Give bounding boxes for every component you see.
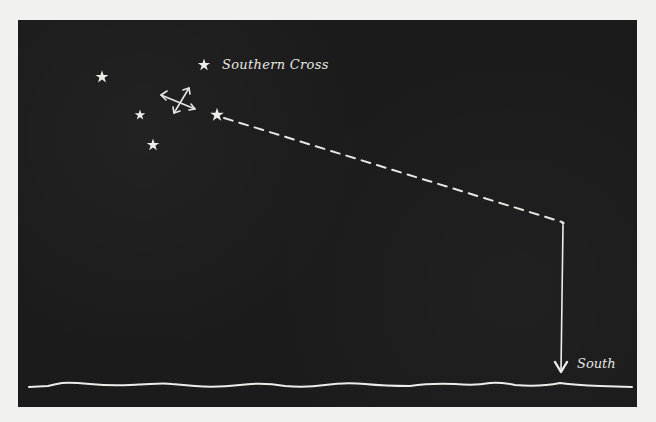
south-arrow [555,225,567,372]
star-icon [96,70,109,82]
south-label: South [577,356,616,371]
stars [96,59,224,151]
projection-dashed-line [224,118,562,222]
crossed-arrows-icon [161,88,195,113]
star-icon [147,138,160,150]
southern-cross-label: Southern Cross [222,57,329,72]
star-icon [198,59,210,71]
horizon-line [29,383,632,387]
projection-end-dot [561,221,564,224]
star-icon [210,108,224,121]
star-icon [135,109,146,119]
